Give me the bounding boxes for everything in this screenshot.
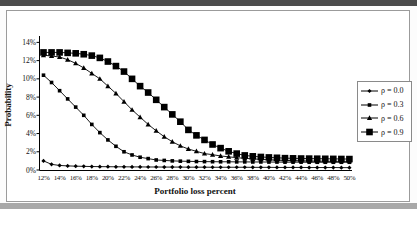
- small-square-marker-icon: [179, 159, 183, 163]
- small-square-marker-icon: [162, 159, 166, 163]
- diamond-marker-icon: [98, 165, 102, 169]
- small-square-marker-icon: [171, 159, 175, 163]
- small-square-marker-icon: [50, 81, 54, 85]
- large-square-marker-icon: [201, 137, 208, 144]
- triangle-marker-icon: [178, 143, 183, 148]
- diamond-marker-icon: [275, 165, 279, 169]
- diamond-marker-icon: [49, 162, 53, 166]
- y-tick-label: 14%: [12, 38, 36, 47]
- diamond-marker-icon: [146, 165, 150, 169]
- diamond-marker-icon: [106, 165, 110, 169]
- large-square-marker-icon: [258, 154, 265, 161]
- diamond-marker-icon: [243, 165, 247, 169]
- large-square-marker-icon: [145, 89, 152, 96]
- large-square-marker-icon: [209, 141, 216, 148]
- diamond-marker-icon: [58, 163, 62, 167]
- small-square-marker-icon: [243, 160, 247, 164]
- triangle-marker-icon: [162, 134, 167, 139]
- large-square-marker-icon: [97, 55, 104, 62]
- series-ρ=0.6: [41, 52, 352, 163]
- series-line: [44, 52, 350, 159]
- large-square-marker-icon: [56, 49, 63, 56]
- large-square-marker-icon: [161, 104, 168, 111]
- small-square-marker-icon: [235, 160, 239, 164]
- y-tick-label: 10%: [12, 74, 36, 83]
- large-square-marker-icon: [80, 51, 87, 58]
- diamond-marker-icon: [291, 165, 295, 169]
- x-tick-label: 50%: [338, 174, 360, 183]
- legend-entry: ρ = 0.9: [361, 127, 409, 137]
- large-square-marker-icon: [366, 129, 373, 136]
- diamond-marker-icon: [323, 165, 327, 169]
- diamond-marker-icon: [90, 164, 94, 168]
- small-square-marker-icon: [58, 89, 62, 93]
- y-tick-label: 2%: [12, 147, 36, 156]
- small-square-marker-icon: [211, 160, 215, 164]
- small-square-marker-icon: [74, 105, 78, 109]
- large-square-marker-icon: [105, 58, 112, 65]
- y-axis-title: Probability: [3, 83, 13, 126]
- diamond-marker-icon: [114, 165, 118, 169]
- scan-bottom-band: [0, 203, 417, 209]
- large-square-marker-icon: [306, 155, 313, 162]
- y-tick-label: 4%: [12, 129, 36, 138]
- triangle-marker-icon: [170, 139, 175, 144]
- large-square-marker-icon: [113, 63, 120, 70]
- large-square-marker-icon: [241, 152, 248, 159]
- large-square-marker-icon: [129, 76, 136, 83]
- legend-label: ρ = 0.3: [381, 100, 404, 109]
- y-tick-label: 6%: [12, 111, 36, 120]
- legend-entry: ρ = 0.0: [361, 86, 409, 96]
- diamond-marker-icon: [307, 165, 311, 169]
- diamond-marker-icon: [251, 165, 255, 169]
- diamond-marker-icon: [82, 164, 86, 168]
- legend-diamond-icon: [361, 86, 379, 96]
- diamond-marker-icon: [267, 165, 271, 169]
- legend-square-small-icon: [361, 100, 379, 110]
- large-square-marker-icon: [153, 97, 160, 104]
- large-square-marker-icon: [274, 154, 281, 161]
- small-square-marker-icon: [90, 123, 94, 127]
- large-square-marker-icon: [185, 127, 192, 134]
- small-square-marker-icon: [227, 160, 231, 164]
- series-ρ=0.9: [40, 49, 353, 162]
- legend-entry: ρ = 0.6: [361, 113, 409, 123]
- diamond-marker-icon: [122, 165, 126, 169]
- diamond-marker-icon: [154, 165, 158, 169]
- small-square-marker-icon: [368, 103, 372, 107]
- diamond-marker-icon: [347, 166, 351, 170]
- small-square-marker-icon: [130, 153, 134, 157]
- diamond-marker-icon: [315, 165, 319, 169]
- small-square-marker-icon: [98, 131, 102, 135]
- large-square-marker-icon: [137, 83, 144, 90]
- small-square-marker-icon: [203, 160, 207, 164]
- diamond-marker-icon: [283, 165, 287, 169]
- large-square-marker-icon: [322, 155, 329, 162]
- diamond-marker-icon: [74, 164, 78, 168]
- small-square-marker-icon: [195, 160, 199, 164]
- large-square-marker-icon: [290, 155, 297, 162]
- diamond-marker-icon: [186, 165, 190, 169]
- diamond-marker-icon: [162, 165, 166, 169]
- small-square-marker-icon: [42, 73, 46, 77]
- small-square-marker-icon: [146, 157, 150, 161]
- legend: ρ = 0.0ρ = 0.3ρ = 0.6ρ = 0.9: [357, 81, 412, 142]
- small-square-marker-icon: [219, 160, 223, 164]
- large-square-marker-icon: [266, 154, 273, 161]
- diamond-marker-icon: [235, 165, 239, 169]
- legend-square-large-icon: [361, 127, 379, 137]
- series-line: [44, 55, 350, 161]
- diamond-marker-icon: [219, 165, 223, 169]
- small-square-marker-icon: [187, 160, 191, 164]
- y-tick-label: 12%: [12, 56, 36, 65]
- small-square-marker-icon: [122, 150, 126, 154]
- legend-entry: ρ = 0.3: [361, 100, 409, 110]
- large-square-marker-icon: [346, 156, 353, 163]
- small-square-marker-icon: [154, 158, 158, 162]
- diamond-marker-icon: [194, 165, 198, 169]
- legend-label: ρ = 0.6: [381, 114, 404, 123]
- large-square-marker-icon: [64, 50, 71, 57]
- diamond-marker-icon: [66, 164, 70, 168]
- small-square-marker-icon: [82, 114, 86, 118]
- large-square-marker-icon: [338, 156, 345, 163]
